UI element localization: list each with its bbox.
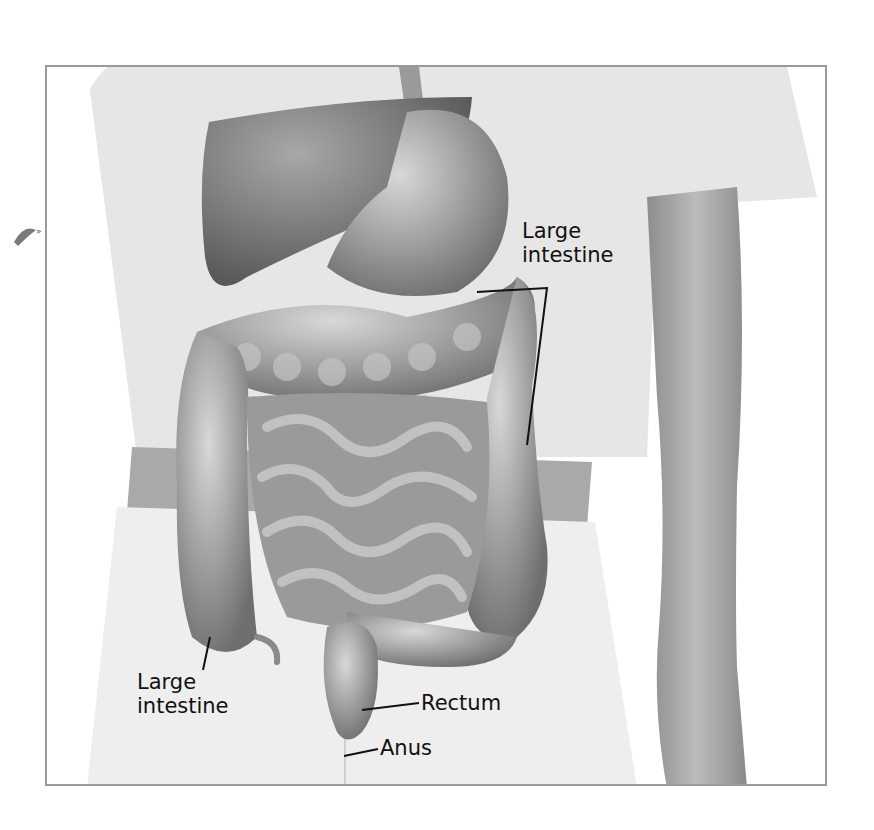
- label-line: Large: [522, 219, 614, 243]
- right-arm: [647, 187, 747, 786]
- label-rectum: Rectum: [421, 691, 501, 715]
- stray-mark-icon: »: [14, 222, 44, 246]
- label-large-intestine-bottom: Large intestine: [137, 670, 229, 718]
- small-intestine: [247, 393, 490, 628]
- label-line: Large: [137, 670, 229, 694]
- label-anus: Anus: [380, 736, 432, 760]
- label-line: intestine: [137, 694, 229, 718]
- large-intestine-ascending: [176, 332, 257, 652]
- label-line: intestine: [522, 243, 614, 267]
- figure-frame: Large intestine Large intestine Rectum A…: [45, 65, 827, 786]
- svg-text:»: »: [36, 226, 42, 236]
- label-large-intestine-top: Large intestine: [522, 219, 614, 267]
